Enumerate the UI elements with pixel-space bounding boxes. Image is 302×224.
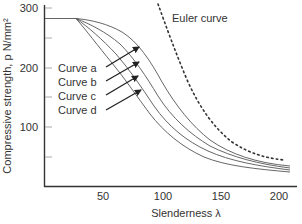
curve-c-label: Curve c (58, 90, 96, 102)
curve-d-arrow (106, 90, 141, 110)
x-tick-label-150: 150 (212, 190, 230, 202)
axes: 300 200 100 50 100 150 200 Slenderness λ… (1, 2, 297, 219)
curve-b-label: Curve b (58, 76, 97, 88)
y-tick-label-100: 100 (20, 121, 38, 133)
curve-d-line (76, 19, 290, 173)
compressive-strength-chart: 300 200 100 50 100 150 200 Slenderness λ… (0, 0, 302, 224)
y-tick-label-300: 300 (20, 2, 38, 14)
curve-a-arrow (106, 47, 139, 67)
x-tick-label-200: 200 (270, 190, 288, 202)
x-axis-title: Slenderness λ (151, 207, 221, 219)
x-tick-label-50: 50 (97, 190, 109, 202)
x-tick-label-100: 100 (154, 190, 172, 202)
curve-a-label: Curve a (58, 62, 97, 74)
euler-curve-line (158, 4, 284, 160)
euler-curve-label: Euler curve (172, 12, 228, 24)
y-axis-title: Compressive strength, p N/mm² (1, 18, 13, 174)
y-tick-label-200: 200 (20, 62, 38, 74)
curve-d-label: Curve d (58, 104, 97, 116)
